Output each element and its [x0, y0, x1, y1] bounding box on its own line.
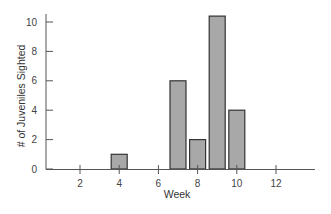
x-axis-title: Week [164, 188, 191, 200]
y-tick-label: 6 [31, 75, 37, 86]
x-tick-label: 12 [270, 178, 282, 189]
y-tick-label: 4 [31, 105, 37, 116]
bar-week-8 [190, 140, 206, 169]
bar-week-9 [209, 16, 225, 169]
y-tick-label: 10 [26, 17, 38, 28]
x-tick-label: 4 [116, 178, 122, 189]
y-tick-label: 0 [31, 164, 37, 175]
x-tick-label: 6 [156, 178, 162, 189]
y-tick-label: 8 [31, 46, 37, 57]
x-tick-label: 8 [195, 178, 201, 189]
x-tick-label: 2 [77, 178, 83, 189]
bar-week-10 [229, 110, 245, 169]
bars-group [111, 16, 245, 169]
x-tick-label: 10 [231, 178, 243, 189]
y-axis-title: # of Juveniles Sighted [15, 44, 27, 147]
bar-chart: 024681024681012 Week # of Juveniles Sigh… [0, 0, 331, 214]
bar-week-7 [170, 81, 186, 169]
y-tick-label: 2 [31, 134, 37, 145]
